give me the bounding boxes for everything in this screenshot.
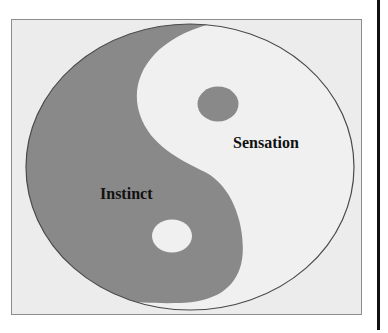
sensation-label: Sensation (233, 134, 299, 151)
light-dot (152, 220, 192, 253)
yin-yang-diagram: Sensation Instinct (0, 0, 388, 333)
instinct-label: Instinct (100, 185, 153, 202)
dark-dot (198, 87, 239, 122)
